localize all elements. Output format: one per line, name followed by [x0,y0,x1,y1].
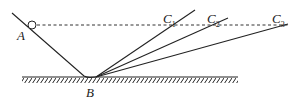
label-c3: C3 [272,12,285,29]
incline-c1 [96,10,195,77]
label-c2: C2 [207,12,220,29]
ball [28,21,36,29]
label-a: A [17,29,25,42]
label-c1: C1 [163,12,176,29]
ground-hatching [22,78,238,83]
diagram: A B C1 C2 C3 [0,0,301,104]
label-b: B [86,86,94,99]
diagram-canvas [0,0,301,104]
incline-a-b [12,13,96,78]
incline-c3 [96,24,288,77]
